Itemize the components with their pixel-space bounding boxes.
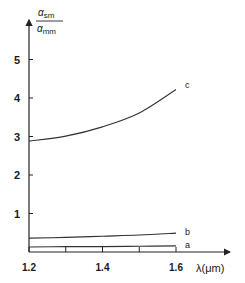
x-ticks: 1.21.41.6 (22, 247, 183, 273)
y-tick-label: 1 (14, 208, 20, 220)
series-label-a: a (185, 240, 190, 250)
y-tick-label: 2 (14, 169, 20, 181)
x-axis-label: λ(μm) (196, 262, 224, 274)
y-tick-label: 3 (14, 131, 20, 143)
curve-b (29, 233, 176, 238)
y-axis-label: αsm αmm (36, 7, 63, 36)
curve-a (29, 246, 176, 247)
y-tick-label: 4 (14, 92, 21, 104)
x-tick-label: 1.2 (22, 262, 36, 273)
y-label-denominator: αmm (37, 23, 56, 36)
chart: αsm αmm 12345 1.21.41.6 abc λ(μm) (0, 0, 245, 283)
series-label-b: b (185, 227, 190, 237)
y-ticks: 12345 (14, 54, 33, 220)
y-tick-label: 5 (14, 54, 20, 66)
curves: abc (29, 80, 190, 250)
x-tick-label: 1.6 (169, 262, 183, 273)
curve-c (29, 90, 176, 142)
y-label-numerator: αsm (38, 7, 55, 20)
series-label-c: c (185, 80, 190, 90)
x-tick-label: 1.4 (96, 262, 110, 273)
